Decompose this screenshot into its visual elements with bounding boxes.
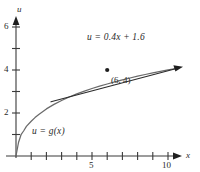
curve-g-of-x-path bbox=[16, 69, 176, 157]
y-tick-label-6: 6 bbox=[4, 22, 9, 31]
y-tick-label-4: 4 bbox=[4, 65, 9, 74]
y-axis-arrowhead bbox=[13, 16, 20, 25]
figure-graph-tangent-line: u x 2 4 6 5 10 u = 0.4x + 1.6 u = g(x) (… bbox=[0, 0, 200, 172]
curve-equation-label: u = g(x) bbox=[32, 127, 65, 137]
tangent-line-arrowhead bbox=[173, 65, 183, 71]
x-axis-label: x bbox=[186, 151, 190, 160]
y-tick-label-2: 2 bbox=[4, 108, 9, 117]
point-marker-6-4 bbox=[105, 68, 109, 72]
x-tick-label-5: 5 bbox=[89, 161, 94, 170]
x-axis-arrowhead bbox=[173, 153, 182, 160]
point-label-6-4: (6, 4) bbox=[111, 76, 131, 85]
tangent-equation-label: u = 0.4x + 1.6 bbox=[87, 33, 145, 43]
x-tick-label-10: 10 bbox=[162, 161, 171, 170]
y-axis-label: u bbox=[17, 5, 22, 14]
plot-svg bbox=[0, 0, 200, 172]
tangent-line bbox=[51, 68, 178, 102]
